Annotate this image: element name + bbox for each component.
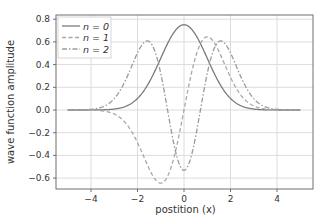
legend-label-n2: n = 2 [83, 44, 109, 55]
wavefunction-chart: 0.80.60.40.20.0−0.2−0.4−0.6 −4−2024 wave… [0, 0, 331, 223]
y-tick-label: −0.2 [28, 128, 50, 138]
y-tick-label: −0.6 [28, 173, 50, 183]
x-tick-label: 0 [181, 194, 187, 204]
legend: n = 0n = 1n = 2 [58, 17, 111, 58]
y-axis-label: wave function amplitude [5, 40, 16, 164]
legend-label-n0: n = 0 [83, 21, 109, 32]
y-tick-label: 0.2 [36, 82, 50, 92]
y-tick-label: 0.0 [36, 105, 51, 115]
y-tick-label: 0.6 [36, 37, 51, 47]
x-tick-label: 2 [228, 194, 234, 204]
x-axis-ticks: −4−2024 [84, 189, 280, 204]
y-tick-label: 0.8 [36, 14, 51, 24]
y-tick-label: −0.4 [28, 150, 50, 160]
x-tick-label: −2 [131, 194, 144, 204]
y-axis-ticks: 0.80.60.40.20.0−0.2−0.4−0.6 [28, 14, 56, 183]
x-axis-label: postition (x) [155, 204, 216, 215]
legend-label-n1: n = 1 [83, 32, 109, 43]
x-tick-label: 4 [274, 194, 280, 204]
x-tick-label: −4 [84, 194, 98, 204]
y-tick-label: 0.4 [36, 60, 51, 70]
